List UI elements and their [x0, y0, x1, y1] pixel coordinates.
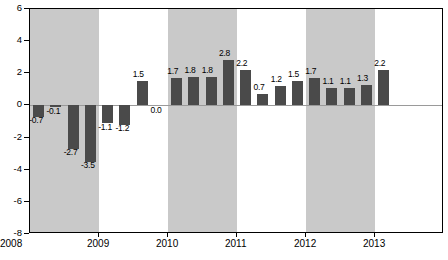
x-tick-label: 2013 — [363, 238, 385, 249]
bar-value-label: 0.7 — [253, 83, 264, 92]
x-tick-mark — [98, 233, 99, 237]
x-tick-label: 2012 — [294, 238, 316, 249]
bar-value-label: 0.0 — [150, 106, 161, 115]
y-tick-label: -2 — [14, 132, 22, 142]
y-tick-label: 6 — [17, 3, 22, 13]
bar — [223, 60, 234, 105]
x-tick-label: 2010 — [156, 238, 178, 249]
bar-value-label: 1.8 — [202, 66, 213, 75]
x-tick-mark — [167, 233, 168, 237]
bar — [119, 105, 130, 124]
bar-value-label: 1.3 — [357, 74, 368, 83]
bar-value-label: 1.8 — [184, 66, 195, 75]
x-tick-label: 2011 — [225, 238, 247, 249]
bar — [257, 94, 268, 105]
bar — [344, 88, 355, 106]
year-band-2012 — [306, 9, 375, 232]
bar — [171, 78, 182, 105]
bar-value-label: -0.7 — [29, 116, 43, 125]
bar-value-label: 1.7 — [305, 67, 316, 76]
bar — [188, 77, 199, 106]
y-tick-label: -8 — [14, 228, 22, 238]
y-tick-label: -4 — [14, 164, 22, 174]
bar-value-label: -3.5 — [81, 161, 95, 170]
bar — [361, 85, 372, 106]
x-tick-label: 2009 — [87, 238, 109, 249]
bar — [102, 105, 113, 123]
bar — [378, 70, 389, 105]
bar-value-label: 1.5 — [133, 70, 144, 79]
x-tick-mark — [374, 233, 375, 237]
bar — [275, 86, 286, 105]
bar — [326, 88, 337, 106]
bar-value-label: 1.7 — [167, 67, 178, 76]
year-band-2010 — [168, 9, 237, 232]
bar-value-label: -1.1 — [98, 123, 112, 132]
bar-value-label: -2.7 — [64, 148, 78, 157]
y-tick-label: 0 — [17, 99, 22, 109]
bar-value-label: -0.1 — [46, 107, 60, 116]
bar-value-label: 1.2 — [271, 75, 282, 84]
bar-value-label: 2.2 — [374, 59, 385, 68]
bar — [85, 105, 96, 161]
x-tick-mark — [236, 233, 237, 237]
bar — [68, 105, 79, 148]
bar-value-label: -1.2 — [115, 124, 129, 133]
bar — [240, 70, 251, 105]
bar-value-label: 1.5 — [288, 70, 299, 79]
bar — [206, 77, 217, 106]
bar-value-label: 2.2 — [236, 59, 247, 68]
bar-value-label: 2.8 — [219, 49, 230, 58]
plot-area — [29, 8, 443, 233]
x-tick-mark — [305, 233, 306, 237]
bar-chart: 6420-2-4-6-8 -0.7-0.1-2.7-3.5-1.1-1.21.5… — [0, 0, 448, 260]
bar-value-label: 1.1 — [340, 77, 351, 86]
x-tick-label: 2008 — [0, 238, 22, 249]
y-tick-mark — [24, 233, 29, 234]
y-axis: 6420-2-4-6-8 — [0, 0, 22, 260]
bar — [137, 81, 148, 105]
bar-value-label: 1.1 — [322, 77, 333, 86]
y-tick-label: 4 — [17, 35, 22, 45]
y-tick-label: 2 — [17, 67, 22, 77]
bar — [292, 81, 303, 105]
y-tick-label: -6 — [14, 196, 22, 206]
bar — [309, 78, 320, 105]
